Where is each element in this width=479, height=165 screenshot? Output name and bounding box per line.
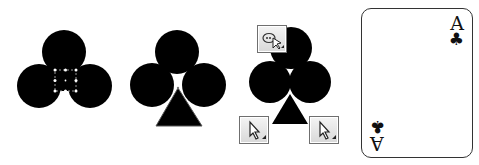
ace-of-clubs-card: A ♣ ♣ A: [361, 8, 473, 158]
card-rank-bottom: A: [370, 134, 384, 153]
arrow-cursor-icon: [310, 117, 338, 143]
club-suit-icon-top: ♣: [449, 31, 464, 48]
selection-handles[interactable]: [54, 69, 78, 93]
shape-builder-tool-button[interactable]: [257, 25, 287, 53]
step2-club-with-stem: [130, 30, 226, 126]
arrow-cursor-icon: [240, 117, 268, 143]
diagram-canvas: A ♣ ♣ A: [0, 0, 479, 165]
selection-tool-button-right[interactable]: [309, 116, 339, 144]
selection-tool-button-left[interactable]: [239, 116, 269, 144]
shape-builder-icon: [258, 26, 286, 52]
